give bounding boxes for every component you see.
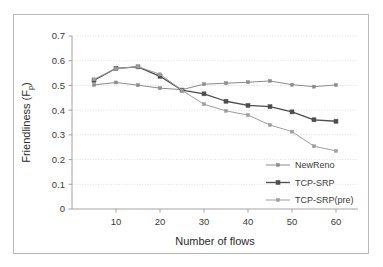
- series-tcp-srp-pre: [93, 65, 338, 152]
- x-tick-label: 30: [199, 216, 210, 227]
- data-point-marker: [290, 110, 294, 114]
- data-point-marker: [277, 199, 280, 202]
- data-point-marker: [291, 83, 294, 86]
- data-point-marker: [247, 81, 250, 84]
- y-tick-label: 0.6: [52, 55, 65, 66]
- chart-legend: NewRenoTCP-SRPTCP-SRP(pre): [266, 160, 354, 205]
- chart-plot-area: 00.10.20.30.40.50.60.7102030405060Number…: [14, 15, 368, 253]
- y-tick-label: 0.4: [52, 105, 65, 116]
- data-point-marker: [334, 119, 338, 123]
- legend-label: TCP-SRP: [295, 178, 335, 188]
- data-point-marker: [115, 67, 118, 70]
- data-point-marker: [224, 99, 228, 103]
- x-tick-label: 40: [243, 216, 254, 227]
- data-point-marker: [137, 65, 140, 68]
- legend-item-newreno[interactable]: NewReno: [266, 160, 335, 170]
- y-tick-label: 0.7: [52, 30, 65, 41]
- data-point-marker: [335, 149, 338, 152]
- series-line: [94, 67, 336, 121]
- data-point-marker: [93, 78, 96, 81]
- series-tcp-srp: [92, 65, 338, 123]
- data-point-marker: [268, 105, 272, 109]
- y-tick-label: 0.3: [52, 129, 65, 140]
- x-tick-label: 50: [287, 216, 298, 227]
- data-point-marker: [159, 73, 162, 76]
- svg-text:Friendliness (Fp): Friendliness (Fp): [20, 82, 35, 163]
- data-point-marker: [276, 181, 280, 185]
- data-point-marker: [203, 103, 206, 106]
- legend-label: TCP-SRP(pre): [295, 195, 354, 205]
- data-point-marker: [202, 92, 206, 96]
- x-axis-title: Number of flows: [175, 235, 255, 247]
- data-point-marker: [269, 79, 272, 82]
- legend-label: NewReno: [295, 160, 335, 170]
- data-point-marker: [277, 164, 280, 167]
- data-point-marker: [313, 145, 316, 148]
- data-point-marker: [291, 130, 294, 133]
- legend-item-tcp-srp[interactable]: TCP-SRP: [266, 178, 335, 188]
- legend-item-tcp-srp-pre[interactable]: TCP-SRP(pre): [266, 195, 354, 205]
- data-point-marker: [247, 114, 250, 117]
- x-tick-label: 10: [111, 216, 122, 227]
- data-point-marker: [181, 89, 184, 92]
- x-axis-ticks: 102030405060: [111, 209, 342, 227]
- y-axis-ticks: 00.10.20.30.40.50.60.7: [52, 30, 72, 214]
- data-point-marker: [246, 103, 250, 107]
- y-tick-label: 0: [60, 203, 65, 214]
- y-tick-label: 0.1: [52, 179, 65, 190]
- x-tick-label: 60: [331, 216, 342, 227]
- data-point-marker: [159, 87, 162, 90]
- y-tick-label: 0.5: [52, 80, 65, 91]
- data-point-marker: [312, 118, 316, 122]
- data-point-marker: [269, 123, 272, 126]
- data-point-marker: [335, 83, 338, 86]
- data-point-marker: [313, 85, 316, 88]
- chart-figure: 00.10.20.30.40.50.60.7102030405060Number…: [13, 14, 369, 254]
- friendliness-line-chart: 00.10.20.30.40.50.60.7102030405060Number…: [14, 15, 368, 253]
- data-point-marker: [203, 83, 206, 86]
- y-tick-label: 0.2: [52, 154, 65, 165]
- data-point-marker: [137, 84, 140, 87]
- y-axis-title: Friendliness (Fp): [20, 82, 35, 163]
- x-tick-label: 20: [155, 216, 166, 227]
- data-point-marker: [93, 83, 96, 86]
- series-line: [94, 67, 336, 151]
- data-point-marker: [225, 109, 228, 112]
- data-point-marker: [225, 82, 228, 85]
- data-point-marker: [115, 81, 118, 84]
